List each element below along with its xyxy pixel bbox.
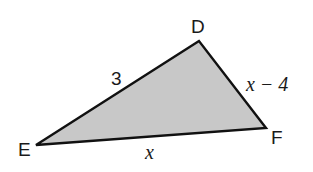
vertex-label-f: F bbox=[271, 128, 283, 147]
side-label-df-text: x − 4 bbox=[246, 73, 288, 95]
side-label-df: x − 4 bbox=[246, 74, 288, 94]
vertex-label-d: D bbox=[191, 17, 205, 36]
side-label-ef: x bbox=[145, 142, 154, 162]
triangle-def bbox=[36, 41, 266, 145]
triangle-diagram: D E F 3 x − 4 x bbox=[0, 0, 313, 172]
vertex-label-e: E bbox=[18, 140, 31, 159]
side-label-de: 3 bbox=[111, 69, 122, 88]
